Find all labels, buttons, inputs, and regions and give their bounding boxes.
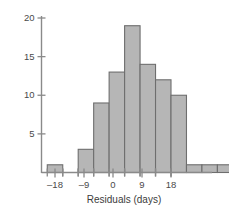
histogram-bar bbox=[140, 64, 155, 172]
y-axis-tick-label: 15 bbox=[24, 51, 35, 62]
bars-layer bbox=[47, 26, 229, 173]
histogram-bar bbox=[156, 80, 171, 173]
y-axis-tick-label: 10 bbox=[24, 89, 35, 100]
y-ticks-layer: 5101520 bbox=[24, 12, 46, 139]
x-axis-tick-label: 18 bbox=[166, 179, 177, 190]
y-axis-tick-label: 5 bbox=[29, 128, 34, 139]
histogram-bar bbox=[186, 165, 201, 173]
x-axis-tick-label: –18 bbox=[47, 179, 63, 190]
x-axis-tick-label: 9 bbox=[139, 179, 144, 190]
histogram-bar bbox=[109, 72, 124, 172]
histogram-bar bbox=[202, 165, 217, 173]
x-axis-tick-label: –9 bbox=[79, 179, 90, 190]
histogram-bar bbox=[125, 26, 140, 173]
histogram-bar bbox=[94, 103, 109, 173]
x-axis-title: Residuals (days) bbox=[87, 194, 161, 205]
histogram-bar bbox=[217, 165, 229, 173]
x-axis-tick-label: 0 bbox=[110, 179, 115, 190]
y-axis-tick-label: 20 bbox=[24, 12, 35, 23]
histogram-figure: 5101520 –18–90918 Residuals (days) bbox=[0, 0, 229, 217]
histogram-bar bbox=[78, 149, 93, 172]
residuals-histogram: 5101520 –18–90918 Residuals (days) bbox=[0, 0, 229, 217]
histogram-bar bbox=[171, 95, 186, 172]
